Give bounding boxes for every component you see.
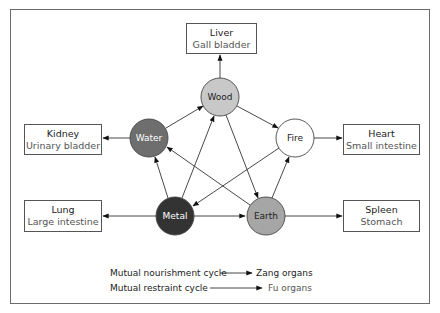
organ-box-spleen: Spleen Stomach [343,200,420,232]
arrow-wood-earth [226,115,258,198]
arrow-fire-earth [272,157,289,198]
zang-organ-liver: Liver [187,27,256,39]
zang-organ-heart: Heart [344,128,419,140]
organ-box-heart: Heart Small intestine [343,124,420,155]
element-water-label: Water [129,132,169,144]
legend-fu-label: Fu organs [268,282,312,294]
fu-organ-large-intestine: Large intestine [25,216,101,228]
fu-organ-gall-bladder: Gall bladder [187,39,256,51]
arrow-wood-fire [237,106,278,128]
element-fire-label: Fire [275,132,315,144]
legend-zang-label: Zang organs [256,267,313,279]
element-wood-label: Wood [200,91,240,103]
element-earth-label: Earth [246,210,286,222]
organ-box-liver: Liver Gall bladder [186,23,257,54]
zang-organ-lung: Lung [25,204,101,216]
organ-box-kidney: Kidney Urinary bladder [24,124,102,155]
fu-organ-urinary-bladder: Urinary bladder [25,140,101,152]
element-metal-label: Metal [155,210,195,222]
organ-box-lung: Lung Large intestine [24,200,102,232]
fu-organ-stomach: Stomach [344,216,419,228]
fu-organ-small-intestine: Small intestine [344,140,419,152]
arrow-water-wood [166,106,203,128]
arrow-metal-water [155,157,168,198]
zang-organ-spleen: Spleen [344,204,419,216]
legend-restraint-label: Mutual restraint cycle [110,282,208,294]
legend-nourishment-label: Mutual nourishment cycle [110,267,227,279]
zang-organ-kidney: Kidney [25,128,101,140]
arrow-metal-wood [182,116,214,198]
